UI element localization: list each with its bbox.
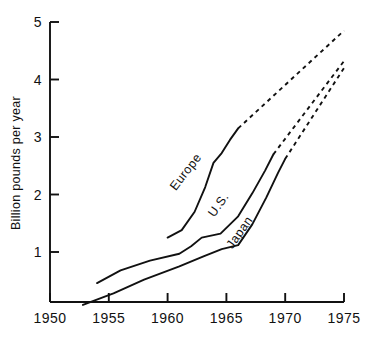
x-tick-label-1965: 1965 bbox=[210, 310, 243, 326]
series-projection-europe bbox=[238, 31, 344, 129]
series-projection-japan bbox=[285, 68, 344, 159]
series-projection-us bbox=[273, 61, 344, 154]
y-axis-title: Billion pounds per year bbox=[9, 96, 23, 230]
x-tick-label-1970: 1970 bbox=[269, 310, 302, 326]
y-tick-label-3: 3 bbox=[34, 129, 42, 145]
y-tick-label-1: 1 bbox=[34, 244, 42, 260]
x-tick-label-1975: 1975 bbox=[327, 310, 360, 326]
y-tick-label-4: 4 bbox=[34, 72, 42, 88]
series-label-japan: Japan bbox=[224, 214, 256, 252]
x-tick-label-1955: 1955 bbox=[92, 310, 125, 326]
y-tick-label-5: 5 bbox=[34, 14, 42, 30]
series-label-us: U.S. bbox=[205, 190, 231, 219]
chart-container: 12345 195019551960196519701975 EuropeU.S… bbox=[0, 0, 369, 343]
x-tick-label-1950: 1950 bbox=[33, 310, 66, 326]
x-tick-label-1960: 1960 bbox=[151, 310, 184, 326]
series-label-europe: Europe bbox=[167, 151, 204, 193]
y-tick-label-2: 2 bbox=[34, 187, 42, 203]
data-series-group bbox=[83, 31, 344, 305]
line-chart: 12345 195019551960196519701975 EuropeU.S… bbox=[0, 0, 369, 343]
y-axis-ticks bbox=[50, 22, 59, 252]
y-axis-tick-labels: 12345 bbox=[34, 14, 42, 260]
x-axis-tick-labels: 195019551960196519701975 bbox=[33, 310, 360, 326]
